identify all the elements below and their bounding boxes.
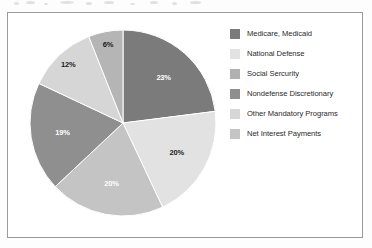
legend-label-nondefense-discretionary: Nondefense Discretionary xyxy=(247,89,333,98)
pie-slice-label: 20% xyxy=(170,148,185,157)
legend: Medicare, Medicaid National Defense Soci… xyxy=(230,25,362,145)
legend-label-net-interest-payments: Net Interest Payments xyxy=(247,129,321,138)
scan-artifact xyxy=(86,2,92,5)
pie-slice-label: 12% xyxy=(61,60,76,69)
legend-item-other-mandatory-programs[interactable]: Other Mandatory Programs xyxy=(230,105,362,123)
scan-artifact xyxy=(60,1,74,4)
chart-frame: 23%20%20%19%12%6% Medicare, Medicaid Nat… xyxy=(7,12,363,238)
figure-canvas: 23%20%20%19%12%6% Medicare, Medicaid Nat… xyxy=(0,0,372,248)
pie-chart-svg: 23%20%20%19%12%6% xyxy=(28,27,218,223)
legend-swatch-nondefense-discretionary xyxy=(230,89,240,99)
legend-swatch-national-defense xyxy=(230,49,240,59)
legend-item-nondefense-discretionary[interactable]: Nondefense Discretionary xyxy=(230,85,362,103)
legend-label-medicare-medicaid: Medicare, Medicaid xyxy=(247,29,312,38)
scan-artifact xyxy=(104,1,114,4)
legend-swatch-other-mandatory-programs xyxy=(230,109,240,119)
pie-slice-label: 23% xyxy=(156,73,171,82)
scan-artifact xyxy=(14,2,19,5)
pie-slice-label: 19% xyxy=(55,128,70,137)
legend-item-national-defense[interactable]: National Defense xyxy=(230,45,362,63)
legend-swatch-medicare-medicaid xyxy=(230,29,240,39)
chart-plot-area: 23%20%20%19%12%6% Medicare, Medicaid Nat… xyxy=(8,13,364,239)
legend-label-other-mandatory-programs: Other Mandatory Programs xyxy=(247,109,338,118)
legend-swatch-net-interest-payments xyxy=(230,129,240,139)
legend-item-medicare-medicaid[interactable]: Medicare, Medicaid xyxy=(230,25,362,43)
pie-slice-label: 6% xyxy=(103,40,114,49)
legend-swatch-social-sercurity xyxy=(230,69,240,79)
legend-item-social-sercurity[interactable]: Social Sercurity xyxy=(230,65,362,83)
legend-label-national-defense: National Defense xyxy=(247,49,304,58)
legend-item-net-interest-payments[interactable]: Net Interest Payments xyxy=(230,125,362,143)
scan-artifact xyxy=(130,3,135,5)
pie-chart: 23%20%20%19%12%6% xyxy=(28,27,218,223)
scan-artifact xyxy=(150,1,158,4)
scan-artifact xyxy=(44,3,48,5)
scan-artifact xyxy=(26,1,35,4)
scan-artifact xyxy=(172,2,177,5)
legend-label-social-sercurity: Social Sercurity xyxy=(247,69,299,78)
scan-artifact xyxy=(190,1,201,4)
pie-slice-label: 20% xyxy=(104,179,119,188)
